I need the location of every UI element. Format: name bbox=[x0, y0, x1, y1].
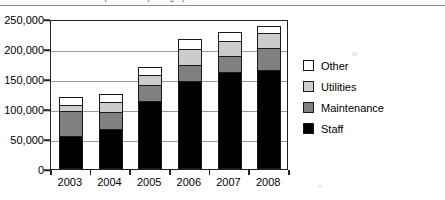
bar-segment-maintenance bbox=[99, 112, 123, 129]
bar-2006 bbox=[178, 39, 202, 169]
bar-segment-utilities bbox=[138, 75, 162, 85]
bar-segment-other bbox=[59, 97, 83, 105]
gridline bbox=[51, 51, 287, 52]
legend-swatch-utilities bbox=[303, 81, 314, 92]
x-axis-tick-label: 2003 bbox=[50, 176, 90, 188]
legend-item-maintenance[interactable]: Maintenance bbox=[303, 99, 384, 116]
caption-divider-rule bbox=[0, 5, 445, 6]
x-axis-tick-mark bbox=[50, 170, 52, 175]
bar-2007 bbox=[218, 32, 242, 169]
x-axis-tick-mark bbox=[169, 170, 171, 175]
bar-segment-staff bbox=[59, 136, 83, 169]
bar-segment-maintenance bbox=[218, 56, 242, 72]
legend-label: Maintenance bbox=[321, 102, 384, 114]
y-axis-tick-label: 0 bbox=[0, 164, 44, 176]
y-axis-tick-label: 50,000 bbox=[0, 134, 44, 146]
bar-segment-other bbox=[218, 32, 242, 41]
bar-segment-staff bbox=[99, 129, 123, 169]
gridline bbox=[51, 81, 287, 82]
bar-2004 bbox=[99, 94, 123, 169]
bar-segment-maintenance bbox=[59, 111, 83, 136]
y-axis-tick-label: 250,000 bbox=[0, 14, 44, 26]
scan-speckle bbox=[352, 52, 357, 56]
bar-segment-other bbox=[99, 94, 123, 102]
x-axis-tick-mark bbox=[288, 170, 290, 175]
bar-segment-maintenance bbox=[257, 48, 281, 70]
legend-item-other[interactable]: Other bbox=[303, 57, 384, 74]
legend: OtherUtilitiesMaintenanceStaff bbox=[303, 57, 384, 141]
cropped-caption-text: expenditure by category bbox=[96, 0, 186, 2]
bar-segment-maintenance bbox=[138, 85, 162, 101]
gridline bbox=[51, 141, 287, 142]
x-axis-tick-mark bbox=[248, 170, 250, 175]
x-axis-tick-label: 2008 bbox=[248, 176, 288, 188]
x-axis-tick-mark bbox=[129, 170, 131, 175]
y-axis-tick-label: 200,000 bbox=[0, 44, 44, 56]
legend-swatch-other bbox=[303, 60, 314, 71]
legend-label: Utilities bbox=[321, 81, 356, 93]
scan-speckle bbox=[318, 185, 322, 188]
bar-segment-utilities bbox=[178, 49, 202, 65]
x-axis-tick-mark bbox=[209, 170, 211, 175]
x-axis-tick-label: 2006 bbox=[169, 176, 209, 188]
legend-item-staff[interactable]: Staff bbox=[303, 120, 384, 137]
legend-label: Staff bbox=[321, 123, 343, 135]
bar-segment-utilities bbox=[99, 102, 123, 112]
bar-segment-staff bbox=[178, 81, 202, 169]
bar-segment-other bbox=[257, 26, 281, 33]
plot-area bbox=[50, 20, 288, 170]
legend-label: Other bbox=[321, 60, 349, 72]
bar-2003 bbox=[59, 97, 83, 169]
bar-2005 bbox=[138, 67, 162, 169]
x-axis-tick-label: 2005 bbox=[129, 176, 169, 188]
bar-2008 bbox=[257, 26, 281, 169]
legend-swatch-maintenance bbox=[303, 102, 314, 113]
bar-segment-maintenance bbox=[178, 65, 202, 81]
bar-segment-utilities bbox=[257, 33, 281, 48]
y-axis-tick-label: 150,000 bbox=[0, 74, 44, 86]
x-axis-tick-mark bbox=[90, 170, 92, 175]
stacked-bar-chart: expenditure by category 050,000100,00015… bbox=[0, 0, 445, 200]
bar-segment-utilities bbox=[218, 41, 242, 56]
bar-segment-other bbox=[178, 39, 202, 49]
legend-swatch-staff bbox=[303, 123, 314, 134]
bar-segment-staff bbox=[218, 72, 242, 169]
legend-item-utilities[interactable]: Utilities bbox=[303, 78, 384, 95]
x-axis-tick-label: 2007 bbox=[209, 176, 249, 188]
bar-segment-staff bbox=[138, 101, 162, 169]
gridline bbox=[51, 111, 287, 112]
y-axis-tick-label: 100,000 bbox=[0, 104, 44, 116]
bar-segment-staff bbox=[257, 70, 281, 169]
bar-segment-other bbox=[138, 67, 162, 75]
x-axis-tick-label: 2004 bbox=[90, 176, 130, 188]
